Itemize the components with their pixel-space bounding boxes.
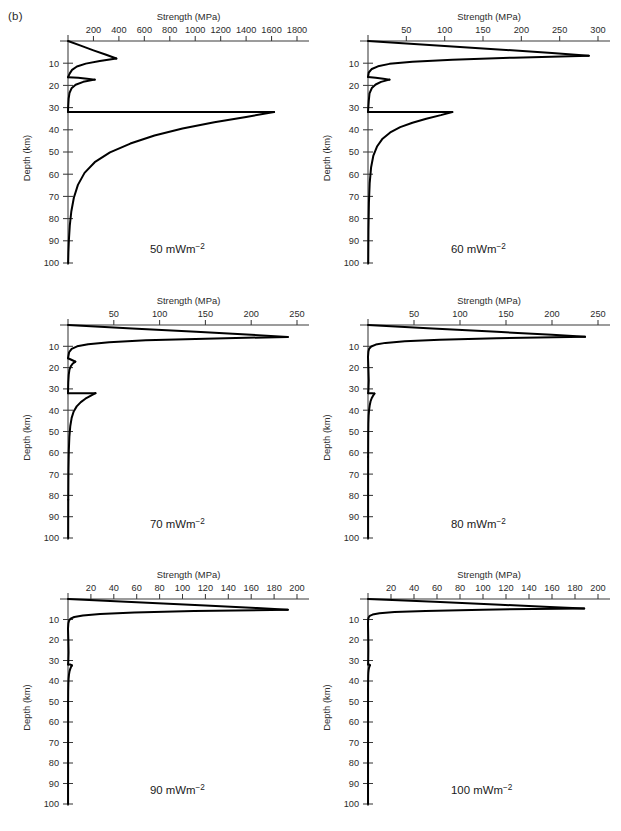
strength-curve-upper-crust-ductile [68,337,288,358]
x-tick-label: 150 [475,25,490,35]
strength-profile-panel-80: Strength (MPa)50100150200250102030405060… [311,286,621,567]
x-tick-label: 100 [475,583,490,593]
x-axis-title: Strength (MPa) [457,11,521,22]
x-tick-label: 50 [409,309,419,319]
yield-strength-envelope-figure: (b) Strength (MPa)2004006008001000120014… [0,0,621,831]
x-tick-label: 1000 [185,25,205,35]
y-tick-label: 50 [49,697,59,707]
heat-flow-exponent: −2 [497,242,507,251]
y-axis-title: Depth (km) [21,684,32,730]
x-tick-label: 140 [221,583,236,593]
y-tick-label: 90 [349,779,359,789]
x-tick-label: 250 [289,309,304,319]
x-tick-label: 20 [86,583,96,593]
strength-curve-lower-crust-brittle [368,77,389,80]
x-tick-label: 200 [86,25,101,35]
y-tick-label: 40 [49,676,59,686]
x-tick-label: 40 [409,583,419,593]
y-tick-label: 30 [49,656,59,666]
x-tick-label: 40 [109,583,119,593]
x-tick-label: 160 [544,583,559,593]
y-axis-title: Depth (km) [21,414,32,460]
strength-profile-panel-90: Strength (MPa)20406080100120140160180200… [0,560,310,831]
strength-curve-upper-crust-brittle [68,325,288,337]
y-tick-label: 20 [349,81,359,91]
y-tick-label: 80 [49,491,59,501]
strength-curve-lower-crust [368,357,369,393]
y-tick-label: 20 [349,635,359,645]
x-tick-label: 200 [514,25,529,35]
y-tick-label: 70 [349,192,359,202]
heat-flow-annotation: 50 mWm−2 [150,242,205,255]
y-tick-label: 60 [49,448,59,458]
y-tick-label: 30 [349,384,359,394]
heat-flow-exponent: −2 [196,242,206,251]
y-tick-label: 70 [349,738,359,748]
strength-curve-mantle-ductile [368,665,370,689]
y-tick-label: 10 [349,59,359,69]
y-axis-title: Depth (km) [21,135,32,181]
y-tick-label: 80 [49,758,59,768]
y-tick-label: 50 [349,147,359,157]
x-tick-label: 100 [437,25,452,35]
strength-curve-lower-crust-brittle [68,77,95,79]
y-tick-label: 20 [49,81,59,91]
y-tick-label: 40 [49,125,59,135]
x-tick-label: 1400 [236,25,256,35]
strength-curve-upper-crust-brittle [68,41,116,59]
y-tick-label: 100 [44,258,59,268]
y-tick-label: 40 [349,676,359,686]
x-tick-label: 1200 [210,25,230,35]
x-axis-title: Strength (MPa) [157,295,221,306]
x-tick-label: 60 [132,583,142,593]
x-tick-label: 300 [590,25,605,35]
y-tick-label: 60 [49,717,59,727]
y-axis-title: Depth (km) [321,684,332,730]
strength-curve-upper-crust-brittle [368,41,589,56]
x-tick-label: 180 [266,583,281,593]
x-axis-title: Strength (MPa) [457,295,521,306]
y-tick-label: 80 [349,491,359,501]
x-tick-label: 180 [567,583,582,593]
y-tick-label: 60 [49,170,59,180]
y-tick-label: 40 [349,125,359,135]
x-tick-label: 100 [452,309,467,319]
strength-profile-panel-60: Strength (MPa)50100150200250300102030405… [311,0,621,290]
y-tick-label: 60 [349,170,359,180]
y-tick-label: 30 [49,384,59,394]
y-tick-label: 90 [49,512,59,522]
y-tick-label: 100 [344,258,359,268]
x-tick-label: 600 [137,25,152,35]
strength-curve-mantle-ductile [368,112,452,263]
y-tick-label: 80 [349,758,359,768]
y-tick-label: 20 [49,635,59,645]
y-tick-label: 70 [349,470,359,480]
y-tick-label: 100 [44,799,59,809]
y-tick-label: 10 [49,59,59,69]
strength-profile-panel-70: Strength (MPa)50100150200250102030405060… [0,286,310,567]
strength-curve-mantle-ductile [368,394,374,457]
x-axis-title: Strength (MPa) [157,569,221,580]
strength-curve-upper-crust-ductile [368,56,589,77]
heat-flow-exponent: −2 [497,517,507,526]
heat-flow-annotation: 70 mWm−2 [150,517,205,530]
y-tick-label: 100 [344,799,359,809]
x-tick-label: 1800 [287,25,307,35]
x-tick-label: 100 [175,583,190,593]
x-tick-label: 150 [498,309,513,319]
y-tick-label: 10 [349,615,359,625]
x-tick-label: 200 [590,583,605,593]
x-tick-label: 120 [198,583,213,593]
strength-curve-upper-crust-ductile [368,337,585,357]
x-tick-label: 1600 [261,25,281,35]
y-tick-label: 50 [49,427,59,437]
y-tick-label: 30 [349,656,359,666]
strength-curve-upper-crust-ductile [368,608,584,623]
heat-flow-annotation: 90 mWm−2 [150,783,205,796]
y-tick-label: 50 [49,147,59,157]
x-tick-label: 80 [455,583,465,593]
y-axis-title: Depth (km) [321,414,332,460]
x-tick-label: 200 [544,309,559,319]
y-tick-label: 10 [49,342,59,352]
x-tick-label: 80 [154,583,164,593]
